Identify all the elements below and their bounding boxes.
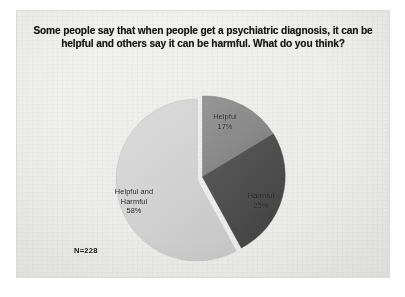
pie-label-helpful-percent: 17%	[195, 122, 255, 132]
pie-label-both-name-line1: Helpful and	[115, 187, 154, 196]
slide-frame: Some people say that when people get a p…	[0, 0, 405, 297]
pie-chart-svg	[17, 11, 389, 277]
pie-chart: Helpful 17% Harmful 25% Helpful and Harm…	[17, 11, 389, 277]
pie-label-both-name-line2: Harmful	[95, 197, 173, 207]
presentation-slide: Some people say that when people get a p…	[17, 11, 389, 277]
pie-label-helpful: Helpful 17%	[195, 112, 255, 131]
pie-label-helpful-name: Helpful	[213, 112, 237, 121]
pie-label-harmful-percent: 25%	[231, 201, 291, 211]
pie-label-harmful: Harmful 25%	[231, 191, 291, 210]
pie-label-both-percent: 58%	[95, 206, 173, 216]
pie-label-helpful-and-harmful: Helpful and Harmful 58%	[95, 187, 173, 216]
pie-label-harmful-name: Harmful	[248, 191, 275, 200]
sample-size-annotation: N=228	[74, 246, 98, 255]
